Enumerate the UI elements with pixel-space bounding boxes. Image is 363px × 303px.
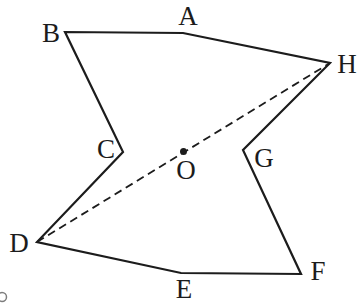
vertex-label-C: C (97, 134, 115, 164)
polygon-diagram: ABCDEFGHO (0, 0, 363, 303)
vertex-label-G: G (254, 143, 274, 173)
geometry-figure: ABCDEFGHO (0, 0, 363, 303)
vertex-label-A: A (178, 1, 198, 31)
point-label-O: O (176, 155, 196, 185)
vertex-label-D: D (9, 228, 29, 258)
vertex-label-B: B (42, 18, 60, 48)
vertex-label-F: F (310, 256, 325, 286)
vertex-label-H: H (337, 49, 357, 79)
vertex-label-E: E (176, 274, 193, 303)
point-o-dot (180, 148, 187, 155)
